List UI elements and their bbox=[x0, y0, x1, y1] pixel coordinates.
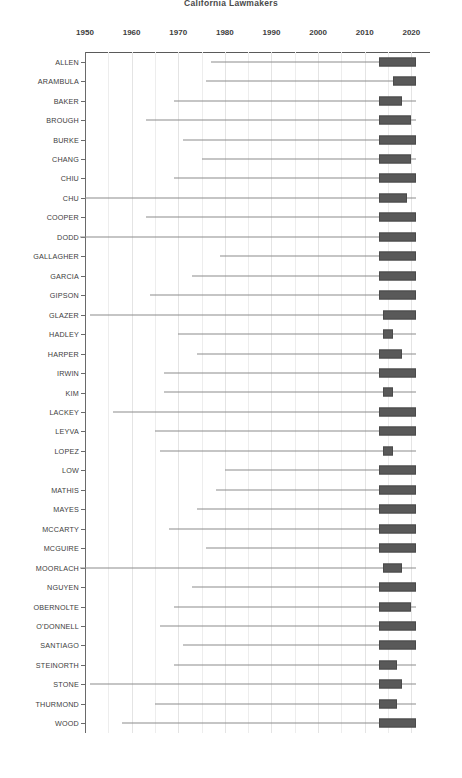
box-plot-row bbox=[85, 169, 430, 188]
y-axis-tick-label: IRWIN bbox=[0, 369, 79, 378]
box bbox=[379, 232, 416, 241]
whisker-line bbox=[146, 217, 416, 218]
y-axis-tick-label: MCGUIRE bbox=[0, 544, 79, 553]
x-axis-tick-label: 1960 bbox=[123, 28, 141, 37]
box bbox=[379, 719, 416, 728]
y-axis-tick-label: MATHIS bbox=[0, 485, 79, 494]
box bbox=[379, 699, 398, 708]
box bbox=[379, 174, 416, 183]
whisker-line bbox=[90, 684, 416, 685]
y-axis-tick-label: NGUYEN bbox=[0, 583, 79, 592]
box bbox=[379, 291, 416, 300]
whisker-line bbox=[164, 392, 416, 393]
box-plot-row bbox=[85, 130, 430, 149]
box-plot-row bbox=[85, 285, 430, 304]
box bbox=[379, 660, 398, 669]
box-plot-row bbox=[85, 188, 430, 207]
box-plot-row bbox=[85, 616, 430, 635]
whisker-line bbox=[90, 314, 416, 315]
box-plot-row bbox=[85, 538, 430, 557]
box bbox=[379, 252, 416, 261]
y-axis-tick-label: LEYVA bbox=[0, 427, 79, 436]
box bbox=[379, 96, 402, 105]
box bbox=[379, 135, 416, 144]
box bbox=[383, 310, 416, 319]
whisker-line bbox=[160, 450, 416, 451]
y-axis-tick-label: BAKER bbox=[0, 96, 79, 105]
x-axis-tick-label: 1950 bbox=[76, 28, 94, 37]
box-plot-row bbox=[85, 402, 430, 421]
box bbox=[379, 155, 412, 164]
y-axis-tick-label: GARCIA bbox=[0, 271, 79, 280]
box-plot-row bbox=[85, 344, 430, 363]
y-axis-tick-label: HARPER bbox=[0, 349, 79, 358]
box-plot-row bbox=[85, 714, 430, 733]
box-plot-row bbox=[85, 305, 430, 324]
y-axis-tick-label: MAYES bbox=[0, 505, 79, 514]
box-plot-row bbox=[85, 461, 430, 480]
box bbox=[383, 446, 392, 455]
whisker-line bbox=[155, 431, 416, 432]
y-axis-tick-label: BURKE bbox=[0, 135, 79, 144]
whisker-line bbox=[160, 625, 416, 626]
box-plot-row bbox=[85, 91, 430, 110]
whisker-line bbox=[150, 295, 416, 296]
chart-title: California Lawmakers bbox=[0, 0, 462, 8]
box-plot-row bbox=[85, 577, 430, 596]
y-axis-tick-label: O'DONNELL bbox=[0, 621, 79, 630]
y-axis-tick-label: KIM bbox=[0, 388, 79, 397]
box bbox=[383, 330, 392, 339]
whisker-line bbox=[122, 723, 416, 724]
y-axis-tick-label: CHIU bbox=[0, 174, 79, 183]
box-plot-row bbox=[85, 110, 430, 129]
box bbox=[379, 116, 412, 125]
box bbox=[379, 680, 402, 689]
box bbox=[379, 583, 416, 592]
x-axis-tick-label: 2000 bbox=[309, 28, 327, 37]
box-plot-row bbox=[85, 247, 430, 266]
plot-area bbox=[85, 52, 430, 733]
box bbox=[379, 427, 416, 436]
x-axis-tick-label: 2010 bbox=[356, 28, 374, 37]
box-plot-row bbox=[85, 208, 430, 227]
whisker-line bbox=[80, 236, 416, 237]
box bbox=[379, 621, 416, 630]
y-axis-tick-label: STEINORTH bbox=[0, 660, 79, 669]
box bbox=[383, 388, 392, 397]
box-plot-row bbox=[85, 422, 430, 441]
box-plot-row bbox=[85, 655, 430, 674]
box-plot-row bbox=[85, 636, 430, 655]
chart-container: California Lawmakers 1950196019701980199… bbox=[0, 0, 462, 778]
whisker-line bbox=[178, 334, 416, 335]
box-plot-row bbox=[85, 675, 430, 694]
y-axis-tick-label: GLAZER bbox=[0, 310, 79, 319]
box bbox=[379, 485, 416, 494]
y-axis-tick-label: LACKEY bbox=[0, 407, 79, 416]
y-axis-tick-label: BROUGH bbox=[0, 116, 79, 125]
y-axis-tick-label: LOPEZ bbox=[0, 446, 79, 455]
box-plot-row bbox=[85, 227, 430, 246]
y-axis-tick-label: ALLEN bbox=[0, 57, 79, 66]
y-axis-tick-label: ARAMBULA bbox=[0, 77, 79, 86]
box-plot-row bbox=[85, 480, 430, 499]
y-axis-tick-label: CHU bbox=[0, 193, 79, 202]
y-axis-tick-label: HADLEY bbox=[0, 330, 79, 339]
whisker-line bbox=[206, 81, 416, 82]
box-plot-row bbox=[85, 500, 430, 519]
box-plot-row bbox=[85, 558, 430, 577]
y-axis-tick-label: LOW bbox=[0, 466, 79, 475]
y-axis-tick-label: MOORLACH bbox=[0, 563, 79, 572]
box bbox=[379, 213, 416, 222]
y-axis-tick-label: MCCARTY bbox=[0, 524, 79, 533]
y-axis-tick-label: OBERNOLTE bbox=[0, 602, 79, 611]
box-plot-row bbox=[85, 597, 430, 616]
y-axis-tick-label: GIPSON bbox=[0, 291, 79, 300]
box bbox=[383, 563, 402, 572]
y-axis-tick-label: STONE bbox=[0, 680, 79, 689]
box-plot-row bbox=[85, 519, 430, 538]
box bbox=[393, 77, 416, 86]
y-axis-tick-label: GALLAGHER bbox=[0, 252, 79, 261]
box bbox=[379, 641, 416, 650]
box-plot-row bbox=[85, 52, 430, 71]
box bbox=[379, 466, 416, 475]
